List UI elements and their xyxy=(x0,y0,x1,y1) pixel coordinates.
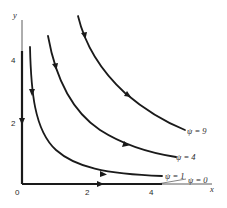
streamline-psi-9 xyxy=(78,16,185,130)
streamline-diagram: y x 0 2 4 2 4 ψ = 9 ψ = 4 ψ = 1 ψ = 0 xyxy=(0,0,227,208)
y-tick-2: 2 xyxy=(11,119,16,128)
arrow-down-icon xyxy=(29,89,35,96)
label-psi-9: ψ = 9 xyxy=(187,126,207,136)
label-psi-0: ψ = 0 xyxy=(188,175,208,185)
x-tick-4: 4 xyxy=(149,188,154,197)
streamline-psi-4 xyxy=(48,36,176,157)
x-tick-0: 0 xyxy=(15,188,20,197)
arrow-right-icon xyxy=(97,181,104,187)
arrow-down-icon xyxy=(19,118,25,125)
label-psi-1: ψ = 1 xyxy=(165,171,185,181)
label-psi-4: ψ = 4 xyxy=(176,152,196,162)
streamline-psi-1 xyxy=(29,47,162,177)
arrow-right-icon xyxy=(100,171,107,177)
x-tick-2: 2 xyxy=(85,188,90,197)
y-tick-4: 4 xyxy=(11,56,16,65)
x-axis-label: x xyxy=(209,184,214,194)
y-axis-label: y xyxy=(12,10,17,20)
